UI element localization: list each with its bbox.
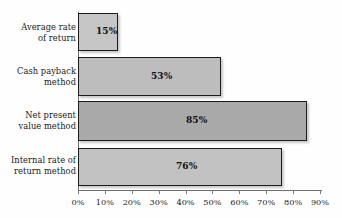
x-tick xyxy=(105,190,106,194)
x-tick xyxy=(239,190,240,194)
bar-value-label: 53% xyxy=(151,71,172,81)
category-label-internal-rate-of-return-method: Internal rate of return method xyxy=(2,155,76,176)
category-label-average-rate-of-return: Average rate of return xyxy=(2,22,76,43)
category-label-line: of return xyxy=(2,33,76,44)
bar xyxy=(78,57,221,96)
category-label-line: Average rate xyxy=(2,22,76,33)
category-label-line: method xyxy=(2,77,76,88)
x-axis-line xyxy=(78,190,322,191)
x-tick xyxy=(78,190,79,194)
category-label-line: return method xyxy=(2,166,76,177)
category-label-line: value method xyxy=(2,121,76,132)
bar-chart: Average rate of return Cash payback meth… xyxy=(0,0,342,218)
x-tick xyxy=(132,190,133,194)
x-tick-label: 80% xyxy=(278,197,308,207)
category-label-net-present-value-method: Net present value method xyxy=(2,110,76,131)
x-tick-label: 30% xyxy=(144,197,174,207)
category-label-line: Cash payback xyxy=(2,66,76,77)
category-label-cash-payback-method: Cash payback method xyxy=(2,66,76,87)
plot-area: 0%10%20%30%40%50%60%70%80%90% 15%53%85%7… xyxy=(78,8,322,186)
x-tick xyxy=(186,190,187,194)
x-tick-label: 40% xyxy=(171,197,201,207)
x-tick xyxy=(320,190,321,194)
x-tick-label: 20% xyxy=(117,197,147,207)
x-tick-label: 90% xyxy=(305,197,335,207)
x-tick-label: 60% xyxy=(224,197,254,207)
x-tick xyxy=(293,190,294,194)
x-tick xyxy=(159,190,160,194)
bar-value-label: 85% xyxy=(186,115,207,125)
category-label-line: Internal rate of xyxy=(2,155,76,166)
bar-value-label: 15% xyxy=(96,26,117,36)
x-tick-label: 70% xyxy=(251,197,281,207)
category-label-line: Net present xyxy=(2,110,76,121)
x-tick-label: 10% xyxy=(90,197,120,207)
x-tick xyxy=(212,190,213,194)
x-tick xyxy=(266,190,267,194)
bar-value-label: 76% xyxy=(176,161,197,171)
x-tick-label: 50% xyxy=(197,197,227,207)
x-tick-label: 0% xyxy=(63,197,93,207)
